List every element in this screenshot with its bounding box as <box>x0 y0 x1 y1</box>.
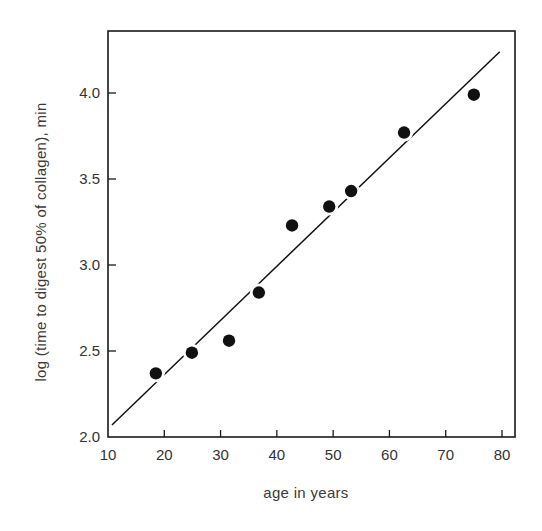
x-tick-label: 40 <box>269 446 286 463</box>
data-point <box>286 219 298 231</box>
data-point <box>186 347 198 359</box>
data-point <box>323 200 335 212</box>
x-tick-label: 80 <box>494 446 511 463</box>
x-axis-ticks: 1020304050607080 <box>100 430 511 463</box>
x-tick-label: 60 <box>381 446 398 463</box>
y-tick-label: 4.0 <box>79 84 100 101</box>
y-axis-label: log (time to digest 50% of collagen), mi… <box>32 102 49 381</box>
data-point <box>468 89 480 101</box>
x-tick-label: 20 <box>156 446 173 463</box>
x-tick-label: 10 <box>100 446 117 463</box>
scatter-chart: 1020304050607080 2.02.53.03.54.0 <box>0 0 542 531</box>
data-point <box>253 286 265 298</box>
data-point <box>150 367 162 379</box>
x-axis-label: age in years <box>0 484 542 501</box>
plot-frame <box>108 31 515 437</box>
y-tick-label: 3.0 <box>79 256 100 273</box>
fit-line <box>112 52 500 425</box>
y-axis-ticks: 2.02.53.03.54.0 <box>79 84 116 445</box>
regression-line <box>112 52 500 425</box>
x-tick-label: 30 <box>212 446 229 463</box>
y-tick-label: 3.5 <box>79 170 100 187</box>
plot-border <box>108 31 515 437</box>
x-tick-label: 70 <box>437 446 454 463</box>
data-point <box>223 334 235 346</box>
data-point <box>345 185 357 197</box>
y-tick-label: 2.0 <box>79 428 100 445</box>
y-tick-label: 2.5 <box>79 342 100 359</box>
data-point <box>398 126 410 138</box>
data-points <box>147 86 483 383</box>
x-tick-label: 50 <box>325 446 342 463</box>
